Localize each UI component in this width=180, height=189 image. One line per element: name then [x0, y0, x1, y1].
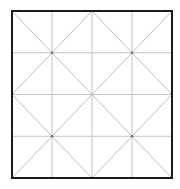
- center-node: [131, 135, 134, 138]
- center-node: [51, 135, 54, 138]
- center-node: [131, 51, 134, 54]
- grid-diagram: [0, 0, 180, 189]
- center-node: [51, 51, 54, 54]
